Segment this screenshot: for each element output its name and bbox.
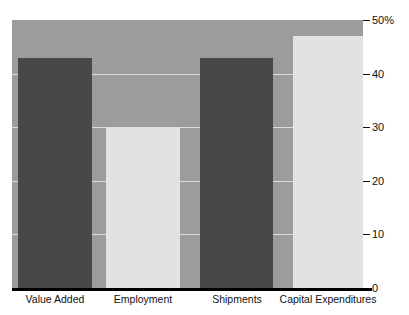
ytick-label-30: 30 <box>372 121 384 133</box>
ytick-mark-30 <box>363 127 370 128</box>
plot-area <box>12 20 363 288</box>
bar-value-added <box>18 58 92 288</box>
ytick-mark-20 <box>363 181 370 182</box>
ytick-mark-10 <box>363 234 370 235</box>
ytick-mark-50 <box>363 20 370 21</box>
chart-title-clipped <box>0 0 409 7</box>
xlabel-employment: Employment <box>114 293 172 305</box>
bar-chart: 50% 40 30 20 10 0 Value Added Employment… <box>0 0 409 315</box>
x-axis-line <box>12 288 372 291</box>
ytick-label-40: 40 <box>372 68 384 80</box>
bar-shipments <box>200 58 273 288</box>
xlabel-capital-expenditures: Capital Expenditures <box>280 293 377 305</box>
bar-capital-expenditures <box>293 36 363 288</box>
ytick-label-50: 50% <box>372 14 394 26</box>
ytick-label-20: 20 <box>372 175 384 187</box>
xlabel-shipments: Shipments <box>212 293 262 305</box>
ytick-mark-40 <box>363 74 370 75</box>
bar-employment <box>106 127 180 288</box>
ytick-label-10: 10 <box>372 228 384 240</box>
xlabel-value-added: Value Added <box>26 293 85 305</box>
